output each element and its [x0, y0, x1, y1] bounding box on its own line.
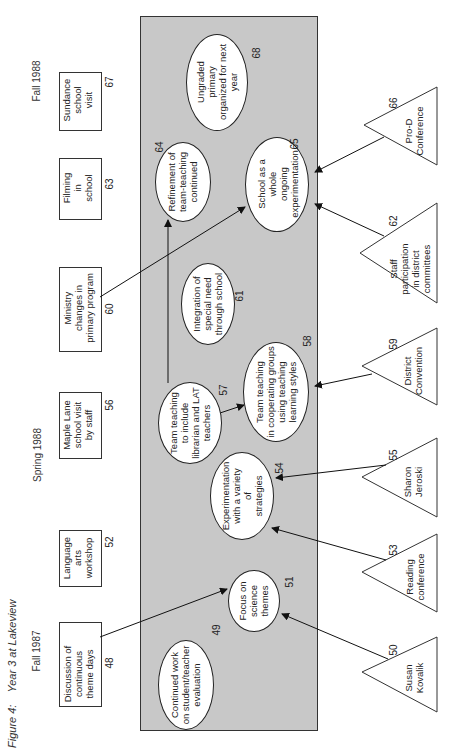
influence-50-text: SusanKovalik [403, 651, 427, 705]
activity-68-number: 68 [251, 43, 263, 63]
activity-58-text: Team teachingin cooperating groupsusing … [254, 342, 298, 442]
activity-57-text: Team teachingto includelibrarian and LAT… [168, 379, 212, 467]
activity-51-number: 51 [284, 572, 296, 592]
activity-54-number: 54 [274, 458, 286, 478]
influence-50-number: 50 [388, 640, 400, 660]
connector-50-51 [282, 614, 388, 659]
activity-61-text: Integration ofspecial needthrough school [191, 265, 225, 343]
influence-53-text: Readingconference [404, 547, 428, 607]
influence-59-text: DistrictConvention [402, 340, 426, 402]
connector-62-65 [315, 204, 384, 236]
activity-61-number: 61 [234, 286, 246, 306]
activity-68-text: Ungradedprimaryorganized for nextyear [195, 37, 239, 127]
influence-59-number: 59 [388, 334, 400, 354]
activity-58-number: 58 [302, 331, 314, 351]
activity-49-text: Continued workon student/teacherevaluati… [169, 642, 203, 728]
activity-64-number: 64 [154, 137, 166, 157]
connector-66-65 [315, 137, 384, 172]
connector-59-58 [315, 374, 372, 386]
connector-53-54 [272, 528, 386, 560]
activity-57-number: 57 [218, 380, 230, 400]
connector-48-51 [100, 589, 227, 637]
connector-57-58 [220, 405, 244, 413]
influence-62-text: Staffparticipationin districtcommittees [388, 234, 434, 304]
activity-65-number: 65 [289, 134, 301, 154]
influence-66-text: Pro-DConference [403, 100, 427, 162]
activity-54-text: Experimentationwith a varietyofstrategie… [220, 451, 264, 541]
influence-53-number: 53 [388, 540, 400, 560]
influence-55-text: SharonJeroski [402, 454, 426, 510]
influence-62-number: 62 [388, 211, 400, 231]
activity-49-number: 49 [211, 620, 223, 640]
activity-51-text: Focus onsciencethemes [237, 576, 271, 626]
influence-55-number: 55 [388, 445, 400, 465]
activity-64-text: Refinement ofteam-teachingcontinued [166, 142, 200, 222]
influence-66-number: 66 [388, 93, 400, 113]
